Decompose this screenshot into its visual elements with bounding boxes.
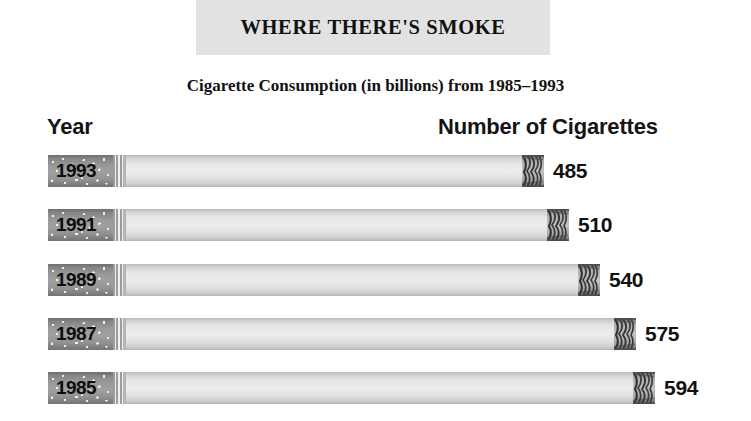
cigarette-burning-tip-icon <box>614 318 636 350</box>
cigarette-paper <box>48 264 600 296</box>
cigarette-burning-tip-icon <box>633 372 655 404</box>
cigarette-paper <box>48 372 655 404</box>
bar-year-label: 1989 <box>56 264 96 296</box>
cigarette-filter-bands <box>113 372 126 404</box>
bar-value-label: 510 <box>578 209 612 241</box>
cigarette-filter-bands <box>113 209 126 241</box>
cigarette-bar: 1987 <box>48 318 636 350</box>
cigarette-paper <box>48 318 636 350</box>
cigarette-burning-tip-icon <box>578 264 600 296</box>
cigarette-filter-bands <box>113 318 126 350</box>
bar-year-label: 1993 <box>56 155 96 187</box>
bar-year-label: 1991 <box>56 209 96 241</box>
cigarette-bar: 1985 <box>48 372 655 404</box>
cigarette-bar: 1989 <box>48 264 600 296</box>
cigarette-burning-tip-icon <box>547 209 569 241</box>
cigarette-burning-tip-icon <box>522 155 544 187</box>
bar-year-label: 1987 <box>56 318 96 350</box>
cigarette-paper <box>48 209 569 241</box>
cigarette-bar: 1993 <box>48 155 544 187</box>
bar-year-label: 1985 <box>56 372 96 404</box>
chart-plot-area: 1993 4851991 5101989 <box>0 0 751 421</box>
cigarette-filter-bands <box>113 155 126 187</box>
bar-value-label: 540 <box>609 264 643 296</box>
cigarette-filter-bands <box>113 264 126 296</box>
bar-value-label: 485 <box>553 155 587 187</box>
bar-value-label: 594 <box>664 372 698 404</box>
bar-value-label: 575 <box>645 318 679 350</box>
chart-page: WHERE THERE'S SMOKE Cigarette Consumptio… <box>0 0 751 421</box>
cigarette-bar: 1991 <box>48 209 569 241</box>
